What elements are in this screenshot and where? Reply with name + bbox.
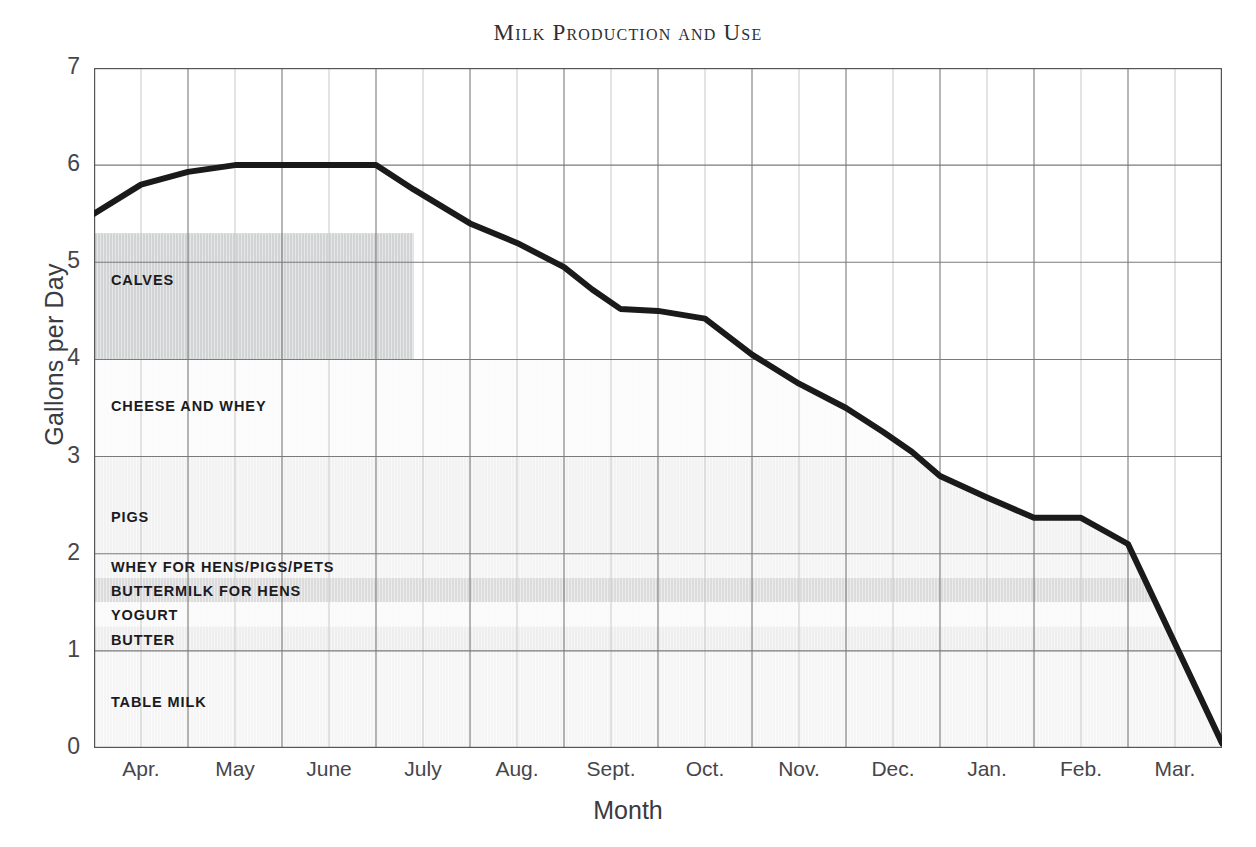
band-label-table-milk: TABLE MILK (111, 694, 207, 710)
y-tick-2: 2 (40, 539, 80, 566)
band-label-butter: BUTTER (111, 632, 175, 648)
y-tick-5: 5 (40, 247, 80, 274)
band-label-cheese-and-whey: CHEESE AND WHEY (111, 398, 267, 414)
y-tick-6: 6 (40, 150, 80, 177)
y-tick-7: 7 (40, 53, 80, 80)
chart-page: Milk Production and Use Gallons per Day … (0, 0, 1256, 847)
y-tick-3: 3 (40, 442, 80, 469)
band-label-yogurt: YOGURT (111, 607, 178, 623)
y-tick-1: 1 (40, 636, 80, 663)
y-tick-0: 0 (40, 733, 80, 760)
x-axis-title: Month (0, 796, 1256, 825)
band-label-calves: CALVES (111, 272, 174, 288)
band-label-whey-for-hens-pigs-pets: WHEY FOR HENS/PIGS/PETS (111, 559, 334, 575)
x-tick-mar: Mar. (1120, 757, 1230, 781)
y-tick-4: 4 (40, 344, 80, 371)
band-label-buttermilk-for-hens: BUTTERMILK FOR HENS (111, 583, 301, 599)
band-label-pigs: PIGS (111, 509, 149, 525)
page-title: Milk Production and Use (0, 20, 1256, 46)
